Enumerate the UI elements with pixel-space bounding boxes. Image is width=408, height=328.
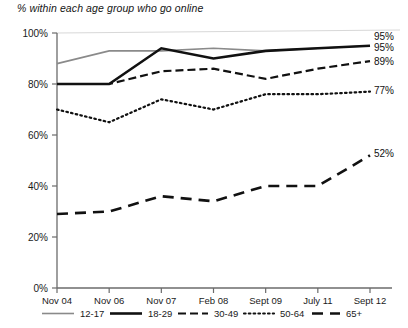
end-label-50-64: 77% [374,85,394,96]
y-axis-tick-labels: 0%20%40%60%80%100% [22,28,48,294]
legend-label-30-49: 30-49 [214,308,238,319]
series-line-30-49 [57,61,370,84]
y-tick-label: 60% [28,130,48,141]
top-gridline [57,30,400,33]
data-series-group [57,46,370,214]
y-tick-label: 40% [28,181,48,192]
y-tick-label: 0% [34,283,49,294]
x-axis-tick-labels: Nov 04Nov 06Nov 07Feb 08Sept 09July 11Se… [42,295,386,306]
x-axis-tick-marks [57,288,370,293]
axes-group [52,33,392,288]
y-tick-label: 100% [22,28,48,39]
legend-label-12-17: 12-17 [80,308,104,319]
x-tick-label: Sept 12 [354,295,387,306]
line-chart-plot: 0%20%40%60%80%100% Nov 04Nov 06Nov 07Feb… [0,0,408,328]
y-tick-label: 20% [28,232,48,243]
series-line-50-64 [57,92,370,123]
y-tick-label: 80% [28,79,48,90]
x-tick-label: Feb 08 [199,295,229,306]
legend-label-18-29: 18-29 [148,308,172,319]
end-label-30-49: 89% [374,56,394,67]
x-tick-label: Sept 09 [249,295,282,306]
x-tick-label: Nov 04 [42,295,72,306]
gridlines-group [57,30,400,33]
end-label-65plus: 52% [374,148,394,159]
x-tick-label: Nov 06 [94,295,124,306]
x-tick-label: Nov 07 [146,295,176,306]
legend-label-50-64: 50-64 [280,308,304,319]
end-label-18-29: 95% [374,42,394,53]
chart-container: % within each age group who go online 0%… [0,0,408,328]
end-label-12-17: 95% [374,31,394,42]
series-line-65plus [57,155,370,214]
series-end-labels: 95%95%89%77%52% [374,31,394,159]
x-tick-label: July 11 [303,295,332,306]
legend-label-65plus: 65+ [346,308,363,319]
chart-legend: 12-1718-2930-4950-6465+ [42,308,363,319]
